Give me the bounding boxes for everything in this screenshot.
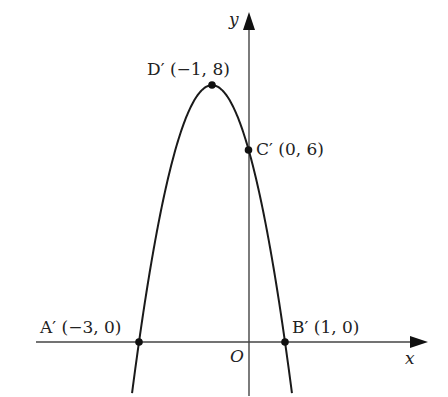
x-axis-arrow-icon — [410, 336, 428, 348]
y-axis-label: y — [228, 9, 239, 29]
point-d-dot — [208, 81, 216, 89]
y-axis-arrow-icon — [243, 12, 255, 30]
point-c-label: C′ (0, 6) — [256, 139, 324, 159]
parabola-figure: A′ (−3, 0) B′ (1, 0) C′ (0, 6) D′ (−1, 8… — [0, 0, 448, 397]
point-b-label: B′ (1, 0) — [292, 317, 359, 337]
y-axis — [243, 12, 255, 396]
point-c-dot — [245, 146, 253, 154]
point-d-label: D′ (−1, 8) — [147, 59, 230, 79]
origin-label: O — [230, 346, 244, 366]
point-b-dot — [281, 338, 289, 346]
parabola-curve — [132, 85, 292, 393]
point-a-label: A′ (−3, 0) — [39, 317, 122, 337]
x-axis-label: x — [405, 348, 415, 368]
point-a-dot — [135, 338, 143, 346]
